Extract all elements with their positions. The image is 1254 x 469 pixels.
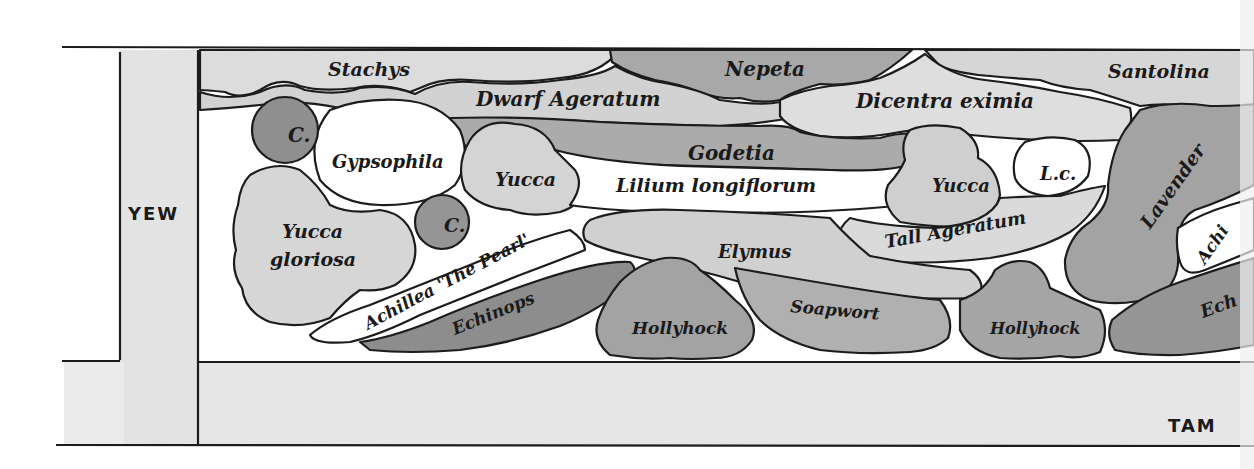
label-yucca-2: Yucca: [932, 175, 990, 196]
hedge-label-yew: YEW: [127, 203, 179, 224]
label-c-2: C.: [444, 214, 465, 236]
label-hollyhock-2: Hollyhock: [989, 319, 1080, 338]
label-yucca-gloriosa-1: Yucca: [282, 220, 343, 242]
label-dicentra: Dicentra eximia: [855, 89, 1034, 113]
label-godetia: Godetia: [688, 141, 775, 165]
garden-plan: YEW TAM Stachys Nepeta Santolina Dwarf A…: [0, 0, 1254, 469]
label-gypsophila: Gypsophila: [332, 151, 444, 172]
hedge-label-tam: TAM: [1168, 415, 1217, 436]
path-band: [196, 362, 1254, 446]
label-yucca-gloriosa-2: gloriosa: [270, 248, 356, 270]
label-stachys: Stachys: [328, 58, 410, 80]
label-yucca-1: Yucca: [495, 168, 556, 190]
label-santolina: Santolina: [1108, 60, 1210, 82]
label-dwarf-ageratum: Dwarf Ageratum: [475, 87, 660, 111]
lower-band: [62, 31, 118, 360]
label-lc: L.c.: [1039, 163, 1076, 184]
page-fold: [1240, 0, 1254, 469]
label-nepeta: Nepeta: [724, 57, 805, 81]
label-c-1: C.: [288, 123, 311, 147]
label-hollyhock-1: Hollyhock: [631, 318, 728, 338]
yew-lower: [64, 362, 124, 446]
label-lilium: Lilium longiflorum: [615, 174, 816, 196]
label-elymus: Elymus: [717, 241, 791, 262]
yew-hedge: [120, 50, 198, 446]
